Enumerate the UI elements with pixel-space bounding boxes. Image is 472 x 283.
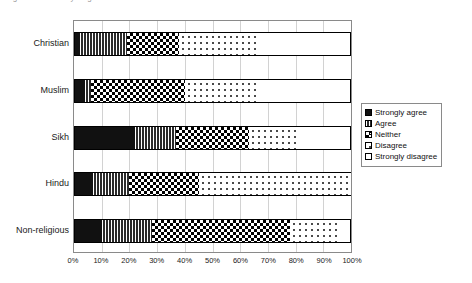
bar-segment [249, 126, 296, 150]
bar-segment [80, 32, 127, 56]
legend-swatch-icon [365, 131, 372, 138]
x-tick-label: 100% [342, 256, 361, 265]
bar-segment [102, 219, 152, 243]
legend-item[interactable]: Strongly agree [365, 107, 437, 118]
bar-segment [93, 172, 129, 196]
legend-item[interactable]: Disagree [365, 140, 437, 151]
legend-swatch-icon [365, 109, 372, 116]
bar-segment [152, 219, 291, 243]
chart-title-remnant: Figure: Attitudes by religious affiliati… [6, 0, 336, 3]
legend-swatch-icon [365, 142, 372, 149]
bar-row [74, 79, 351, 103]
bar-segment [185, 79, 257, 103]
x-tick-label: 90% [317, 256, 332, 265]
x-tick-label: 20% [121, 256, 136, 265]
bar-row [74, 126, 351, 150]
bar-row [74, 32, 351, 56]
bar-segment [74, 219, 102, 243]
bar-segment [257, 79, 351, 103]
legend-label: Strongly agree [375, 107, 427, 118]
plot-area [73, 20, 352, 253]
x-tick-label: 30% [149, 256, 164, 265]
legend-label: Agree [375, 118, 396, 129]
bar-segment [74, 126, 135, 150]
value-axis: 0%10%20%30%40%50%60%70%80%90%100% [73, 256, 352, 270]
legend-item[interactable]: Neither [365, 129, 437, 140]
category-label: Non-religious [0, 218, 69, 242]
x-tick-label: 0% [68, 256, 79, 265]
bar-segment [74, 172, 93, 196]
bar-segment [199, 172, 351, 196]
bar-segment [176, 126, 248, 150]
category-label: Muslim [0, 78, 69, 102]
category-label: Hindu [0, 171, 69, 195]
category-label: Sikh [0, 125, 69, 149]
bar-segment [260, 32, 351, 56]
stacked-bar-chart: Figure: Attitudes by religious affiliati… [0, 0, 472, 283]
x-tick-label: 60% [233, 256, 248, 265]
x-tick-label: 80% [289, 256, 304, 265]
bar-segment [74, 79, 85, 103]
legend-label: Disagree [375, 140, 407, 151]
x-tick-label: 40% [177, 256, 192, 265]
chart-legend: Strongly agreeAgreeNeitherDisagreeStrong… [361, 103, 442, 167]
x-tick-label: 50% [205, 256, 220, 265]
bar-segment [290, 219, 337, 243]
x-tick-label: 10% [93, 256, 108, 265]
legend-label: Strongly disagree [375, 151, 437, 162]
legend-item[interactable]: Agree [365, 118, 437, 129]
category-label: Christian [0, 31, 69, 55]
bar-segment [337, 219, 351, 243]
bar-segment [129, 172, 198, 196]
legend-item[interactable]: Strongly disagree [365, 151, 437, 162]
bar-segment [127, 32, 180, 56]
x-tick-label: 70% [261, 256, 276, 265]
bar-segment [179, 32, 259, 56]
bar-segment [91, 79, 185, 103]
bar-row [74, 172, 351, 196]
legend-label: Neither [375, 129, 401, 140]
category-axis: ChristianMuslimSikhHinduNon-religious [0, 20, 69, 253]
legend-swatch-icon [365, 153, 372, 160]
legend-swatch-icon [365, 120, 372, 127]
bar-row [74, 219, 351, 243]
bar-segment [296, 126, 351, 150]
bar-rows [74, 21, 351, 252]
bar-segment [135, 126, 177, 150]
